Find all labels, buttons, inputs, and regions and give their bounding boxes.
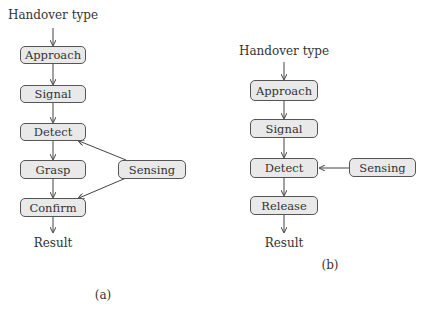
panel-b-output-label: Result [265, 236, 304, 250]
panel-a-node-approach: Approach [20, 46, 86, 64]
panel-a-output-label: Result [34, 236, 73, 250]
panel-a-node-detect: Detect [20, 123, 86, 141]
panel-a-input-label: Handover type [8, 8, 98, 22]
panel-b-node-signal: Signal [250, 119, 318, 138]
panel-b-node-detect: Detect [250, 158, 318, 178]
panel-b-node-sensing: Sensing [349, 158, 416, 177]
panel-a-node-confirm: Confirm [20, 198, 86, 217]
panel-a-node-grasp: Grasp [20, 160, 86, 179]
panel-b-node-approach: Approach [250, 80, 318, 101]
panel-a-node-signal: Signal [20, 85, 86, 103]
panel-a-caption: (a) [95, 288, 112, 302]
panel-a-node-sensing: Sensing [118, 160, 186, 179]
panel-b-input-label: Handover type [239, 44, 329, 58]
panel-b-caption: (b) [321, 258, 338, 272]
panel-b-node-release: Release [250, 196, 318, 215]
